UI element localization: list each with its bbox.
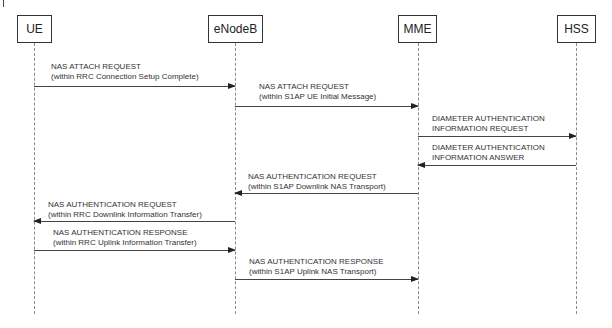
message-3-title: DIAMETER AUTHENTICATION <box>432 114 545 124</box>
message-4-title: DIAMETER AUTHENTICATION <box>432 143 545 153</box>
message-2-subtitle: (within S1AP UE Initial Message) <box>259 92 376 102</box>
message-6-title: NAS AUTHENTICATION REQUEST <box>48 200 202 210</box>
arrowhead-right-icon <box>228 83 236 89</box>
message-1-subtitle: (within RRC Connection Setup Complete) <box>51 72 199 82</box>
arrowhead-right-icon <box>411 276 419 282</box>
message-8-subtitle: (within S1AP Uplink NAS Transport) <box>249 267 384 277</box>
arrowhead-left-icon <box>417 162 425 168</box>
lifeline-hss <box>576 43 577 314</box>
message-5-label: NAS AUTHENTICATION REQUEST (within S1AP … <box>248 172 386 192</box>
entity-ue: UE <box>17 15 52 43</box>
message-7-arrow <box>34 250 235 251</box>
entity-hss-label: HSS <box>564 22 589 36</box>
message-6-arrow <box>34 221 235 222</box>
arrowhead-right-icon <box>228 247 236 253</box>
message-3-subtitle: INFORMATION REQUEST <box>432 124 545 134</box>
arrowhead-right-icon <box>411 103 419 109</box>
message-7-label: NAS AUTHENTICATION RESPONSE (within RRC … <box>53 228 197 248</box>
message-6-label: NAS AUTHENTICATION REQUEST (within RRC D… <box>48 200 202 220</box>
message-8-label: NAS AUTHENTICATION RESPONSE (within S1AP… <box>249 257 384 277</box>
message-5-subtitle: (within S1AP Downlink NAS Transport) <box>248 182 386 192</box>
lifeline-mme <box>418 43 419 314</box>
entity-enodeb: eNodeB <box>208 15 263 43</box>
entity-enodeb-label: eNodeB <box>214 22 257 36</box>
entity-ue-label: UE <box>26 22 43 36</box>
entity-mme: MME <box>398 15 437 43</box>
message-1-title: NAS ATTACH REQUEST <box>51 62 199 72</box>
message-2-title: NAS ATTACH REQUEST <box>259 82 376 92</box>
message-1-label: NAS ATTACH REQUEST (within RRC Connectio… <box>51 62 199 82</box>
arrowhead-right-icon <box>569 133 577 139</box>
message-4-arrow <box>418 165 576 166</box>
message-7-title: NAS AUTHENTICATION RESPONSE <box>53 228 197 238</box>
message-4-subtitle: INFORMATION ANSWER <box>432 153 545 163</box>
message-3-arrow <box>418 136 576 137</box>
message-8-arrow <box>235 279 418 280</box>
message-5-title: NAS AUTHENTICATION REQUEST <box>248 172 386 182</box>
message-3-label: DIAMETER AUTHENTICATION INFORMATION REQU… <box>432 114 545 134</box>
message-4-label: DIAMETER AUTHENTICATION INFORMATION ANSW… <box>432 143 545 163</box>
arrowhead-left-icon <box>234 190 242 196</box>
message-7-subtitle: (within RRC Uplink Information Transfer) <box>53 238 197 248</box>
message-8-title: NAS AUTHENTICATION RESPONSE <box>249 257 384 267</box>
lifeline-ue <box>34 43 35 314</box>
message-6-subtitle: (within RRC Downlink Information Transfe… <box>48 210 202 220</box>
entity-hss: HSS <box>557 15 596 43</box>
arrowhead-left-icon <box>33 218 41 224</box>
entity-mme-label: MME <box>404 22 432 36</box>
message-1-arrow <box>34 86 235 87</box>
page-corner-mark <box>3 0 4 7</box>
message-5-arrow <box>235 193 418 194</box>
message-2-label: NAS ATTACH REQUEST (within S1AP UE Initi… <box>259 82 376 102</box>
message-2-arrow <box>235 106 418 107</box>
